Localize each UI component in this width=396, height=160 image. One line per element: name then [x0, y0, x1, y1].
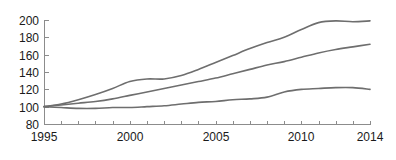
x-axis-ticks — [45, 121, 371, 125]
y-tick-label: 100 — [19, 101, 39, 115]
y-axis-ticks — [45, 21, 49, 125]
x-tick-label: 2010 — [288, 130, 315, 144]
y-tick-label: 180 — [19, 31, 39, 45]
series-line-upper-series — [44, 21, 370, 107]
line-chart: 19952000200520102014 8010012014016018020… — [0, 0, 396, 160]
series-line-middle-series — [44, 44, 370, 106]
y-axis-tick-labels: 80100120140160180200 — [19, 14, 39, 132]
series-group — [44, 21, 370, 109]
x-tick-label: 2005 — [203, 130, 230, 144]
y-tick-label: 160 — [19, 49, 39, 63]
chart-canvas: 19952000200520102014 8010012014016018020… — [0, 0, 396, 160]
y-tick-label: 200 — [19, 14, 39, 28]
series-line-lower-series — [44, 87, 370, 108]
x-tick-label: 1995 — [31, 130, 58, 144]
x-tick-label: 2000 — [117, 130, 144, 144]
y-tick-label: 120 — [19, 83, 39, 97]
y-tick-label: 140 — [19, 66, 39, 80]
x-axis-tick-labels: 19952000200520102014 — [31, 130, 384, 144]
y-tick-label: 80 — [26, 118, 40, 132]
x-tick-label: 2014 — [357, 130, 384, 144]
